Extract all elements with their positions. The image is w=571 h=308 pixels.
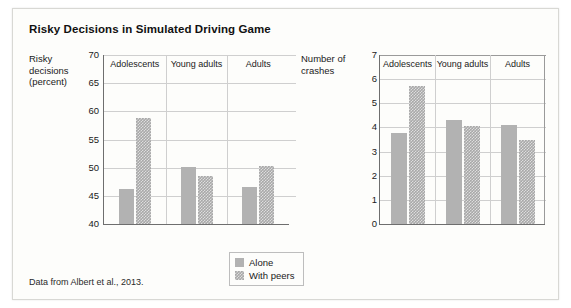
y-axis-tick-label: 60 (77, 106, 99, 116)
gridline (104, 111, 296, 112)
y-axis-tick-label: 2 (355, 171, 377, 181)
plot-right-border (544, 55, 545, 224)
y-axis-tick-label: 4 (355, 122, 377, 132)
y-axis-tick-label: 50 (77, 163, 99, 173)
bar (446, 120, 462, 224)
legend-item-alone: Alone (235, 256, 294, 269)
source-note: Data from Albert et al., 2013. (29, 277, 144, 287)
bar (501, 125, 517, 224)
bar (464, 126, 480, 224)
legend-swatch-with-peers-icon (235, 271, 244, 280)
y-axis-tick-label: 5 (355, 98, 377, 108)
y-axis-tick-label: 6 (355, 74, 377, 84)
bar (409, 86, 425, 224)
x-axis-tick-label: Adults (490, 59, 545, 69)
figure-container: Risky Decisions in Simulated Driving Gam… (12, 8, 559, 300)
y-axis-tick-label: 70 (77, 50, 99, 60)
y-axis-tick-label: 55 (77, 135, 99, 145)
bar (391, 133, 407, 224)
y-axis-tick-label: 3 (355, 147, 377, 157)
bar (259, 166, 274, 224)
chart-panel-crashes: Number ofcrashes 01234567AdolescentsYoun… (301, 49, 549, 249)
x-axis-tick-label: Adolescents (104, 59, 166, 69)
left-y-axis-title-text: Riskydecisions(percent) (29, 53, 69, 87)
legend-swatch-alone-icon (235, 258, 244, 267)
chart-panel-risky-decisions: Riskydecisions(percent) 40455055606570Ad… (27, 49, 295, 249)
bar (519, 140, 535, 225)
y-axis-tick-label: 45 (77, 191, 99, 201)
bar (181, 167, 196, 224)
category-separator (166, 55, 167, 224)
gridline (380, 55, 546, 56)
x-axis-tick-label: Adults (227, 59, 289, 69)
category-separator (490, 55, 491, 224)
gridline (104, 83, 296, 84)
gridline (104, 55, 296, 56)
category-separator (435, 55, 436, 224)
chart-title: Risky Decisions in Simulated Driving Gam… (29, 23, 271, 35)
legend-label-with-peers: With peers (249, 270, 294, 281)
x-axis-tick-label: Adolescents (380, 59, 435, 69)
x-axis-tick-label: Young adults (435, 59, 490, 69)
legend: Alone With peers (229, 252, 304, 286)
legend-label-alone: Alone (249, 257, 273, 268)
category-separator (227, 55, 228, 224)
bar (136, 118, 151, 224)
y-axis-tick-label: 7 (355, 50, 377, 60)
y-axis-tick-label: 40 (77, 219, 99, 229)
legend-item-with-peers: With peers (235, 269, 294, 282)
gridline (104, 140, 296, 141)
bar (242, 187, 257, 224)
gridline (380, 103, 546, 104)
y-axis-tick-label: 1 (355, 195, 377, 205)
right-y-axis-title-text: Number ofcrashes (301, 53, 345, 76)
left-plot-area: 40455055606570AdolescentsYoung adultsAdu… (103, 55, 289, 225)
gridline (380, 79, 546, 80)
right-plot-area: 01234567AdolescentsYoung adultsAdults (379, 55, 545, 225)
x-axis-tick-label: Young adults (166, 59, 228, 69)
bar (119, 189, 134, 224)
bar (198, 176, 213, 224)
y-axis-tick-label: 65 (77, 78, 99, 88)
y-axis-tick-label: 0 (355, 219, 377, 229)
